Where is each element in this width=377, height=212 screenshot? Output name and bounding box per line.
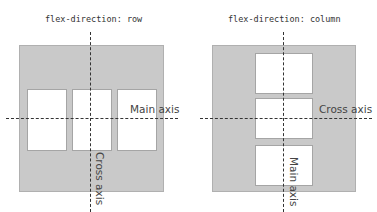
flex-item-3: [255, 145, 313, 186]
flex-item-1: [255, 53, 313, 94]
main-axis-line: [6, 118, 178, 119]
main-axis-label: Main axis: [130, 103, 179, 115]
row-diagram: flex-direction: row Main axis Cross axis: [0, 0, 190, 212]
cross-axis-label: Cross axis: [319, 103, 372, 115]
column-diagram: flex-direction: column Cross axis Main a…: [190, 0, 377, 212]
cross-axis-line: [200, 118, 372, 119]
main-axis-line: [283, 32, 284, 212]
row-diagram-title: flex-direction: row: [45, 14, 142, 24]
flex-item-1: [27, 89, 67, 151]
main-axis-label: Main axis: [288, 157, 300, 206]
column-diagram-title: flex-direction: column: [228, 14, 341, 24]
flex-item-2: [72, 89, 112, 151]
cross-axis-line: [90, 32, 91, 212]
cross-axis-label: Cross axis: [94, 152, 106, 205]
flex-item-3: [117, 89, 157, 151]
